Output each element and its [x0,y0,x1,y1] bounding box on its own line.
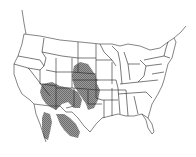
state-line [18,56,44,66]
state-line [120,62,122,84]
west-coast [14,34,34,104]
east-coast [148,38,176,118]
state-line [144,48,166,60]
state-line [46,70,72,72]
gulf-coast [90,114,154,134]
range-map [0,0,196,157]
state-line [96,80,118,88]
state-line [146,64,162,66]
state-line [112,46,120,62]
state-line [118,92,152,98]
state-line [126,90,128,116]
range-mexico-east [56,114,80,138]
state-line [124,52,140,64]
state-line [152,72,164,74]
maine-coast [174,26,186,38]
range-mexico-west [42,112,52,140]
state-line [138,60,146,82]
state-line [128,64,130,80]
state-line [118,88,120,114]
state-line [134,96,138,114]
state-line [164,56,170,58]
state-line [96,60,116,66]
state-line [42,52,78,58]
state-line [28,66,44,70]
alaska-coast-line [22,10,26,34]
canada-border [24,34,174,50]
state-line [100,44,112,60]
